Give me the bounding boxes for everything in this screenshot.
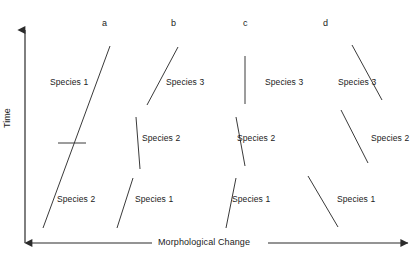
evolutionary-modes-diagram: Time Morphological Change abcd Species 1…	[0, 0, 418, 271]
species-label-d-species-3: Species 3	[338, 78, 376, 87]
b-species-2	[136, 117, 140, 169]
time-axis-label: Time	[2, 108, 12, 128]
column-letter-d: d	[323, 19, 328, 28]
d-species-2	[341, 110, 368, 163]
species-label-b-species-3: Species 3	[166, 78, 204, 87]
species-label-b-species-2: Species 2	[142, 134, 180, 143]
column-letter-b: b	[171, 19, 176, 28]
species-label-c-species-1: Species 1	[232, 195, 270, 204]
species-label-d-species-1: Species 1	[337, 195, 375, 204]
species-label-c-species-3: Species 3	[265, 78, 303, 87]
morphological-axis-label: Morphological Change	[158, 238, 250, 247]
axis-group	[25, 30, 408, 243]
d-species-1	[308, 176, 338, 227]
species-label-b-species-1: Species 1	[135, 195, 173, 204]
species-label-a-species-1: Species 1	[50, 78, 88, 87]
column-letter-c: c	[243, 19, 248, 28]
column-letter-a: a	[102, 19, 107, 28]
d-species-3	[352, 45, 382, 100]
b-species-3	[147, 47, 178, 105]
b-species-1	[117, 178, 133, 228]
species-label-a-species-2: Species 2	[57, 195, 95, 204]
species-label-c-species-2: Species 2	[237, 134, 275, 143]
species-label-d-species-2: Species 2	[371, 134, 409, 143]
diagram-lineart	[0, 0, 418, 271]
